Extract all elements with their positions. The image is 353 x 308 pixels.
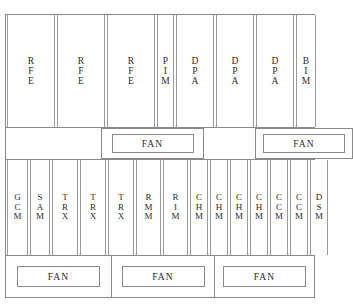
card-label-letter: M <box>302 76 311 86</box>
card-label-letter: D <box>231 56 238 66</box>
card-rfe-0[interactable]: RFE <box>7 15 55 127</box>
card-chm-8[interactable]: CHM <box>210 160 228 255</box>
card-ccm-11[interactable]: CCM <box>270 160 288 255</box>
card-dpa-6[interactable]: DPA <box>256 15 294 127</box>
fan-unit-1[interactable]: FAN <box>263 134 345 153</box>
card-label-letter: R <box>128 56 135 66</box>
card-chm-9[interactable]: CHM <box>230 160 248 255</box>
card-label-letter: D <box>271 56 278 66</box>
card-label-letter: E <box>28 76 34 86</box>
card-label-letter: I <box>304 66 307 76</box>
card-label: RFE <box>128 56 135 86</box>
card-label: CCM <box>275 193 283 222</box>
card-label: DPA <box>191 56 198 86</box>
card-label: TRX <box>90 193 97 222</box>
fan-bay-2: FAN <box>215 256 314 297</box>
card-label-letter: A <box>191 76 198 86</box>
card-label-letter: F <box>128 66 133 76</box>
card-label: TRX <box>118 193 125 222</box>
card-label: SAM <box>36 193 44 222</box>
card-label-letter: I <box>164 66 167 76</box>
fan-unit-0[interactable]: FAN <box>112 134 194 153</box>
card-label: GCM <box>13 193 21 222</box>
fan-bay-0: FAN <box>6 256 112 297</box>
card-label-letter: M <box>315 212 323 222</box>
card-label-letter: M <box>235 212 243 222</box>
card-label-letter: A <box>271 76 278 86</box>
card-label: DPA <box>231 56 238 86</box>
card-sam-1[interactable]: SAM <box>30 160 50 255</box>
card-rmm-5[interactable]: RMM <box>136 160 161 255</box>
card-trx-2[interactable]: TRX <box>52 160 78 255</box>
card-label-letter: R <box>78 56 85 66</box>
card-label-letter: M <box>255 212 263 222</box>
card-label: DPA <box>271 56 278 86</box>
card-label: DSM <box>315 193 323 222</box>
card-label-letter: M <box>161 76 170 86</box>
card-label: PIM <box>161 56 170 86</box>
card-label: CHM <box>215 193 223 222</box>
card-label-letter: R <box>28 56 35 66</box>
lower-fan-tray: FANFANFAN <box>6 256 314 297</box>
fan-unit-2[interactable]: FAN <box>223 266 306 287</box>
card-label-letter: P <box>272 66 277 76</box>
card-chm-10[interactable]: CHM <box>250 160 268 255</box>
card-label: BIM <box>302 56 311 86</box>
card-label-letter: X <box>118 212 125 222</box>
fan-unit-1[interactable]: FAN <box>122 266 205 287</box>
fan-bay-0: FAN <box>101 128 204 159</box>
card-label: CCM <box>295 193 303 222</box>
card-chm-7[interactable]: CHM <box>190 160 208 255</box>
card-label-letter: X <box>62 212 69 222</box>
card-label-letter: X <box>90 212 97 222</box>
card-rim-6[interactable]: RIM <box>163 160 188 255</box>
fan-bay-1: FAN <box>255 128 353 159</box>
card-label-letter: P <box>232 66 237 76</box>
card-label-letter: D <box>191 56 198 66</box>
upper-fan-tray: FANFAN <box>6 128 314 160</box>
upper-card-shelf: RFERFERFEPIMDPADPADPABIM <box>6 15 314 128</box>
card-label: CHM <box>255 193 263 222</box>
card-dsm-13[interactable]: DSM <box>310 160 328 255</box>
card-label-letter: E <box>78 76 84 86</box>
card-ccm-12[interactable]: CCM <box>290 160 308 255</box>
lower-card-shelf: GCMSAMTRXTRXTRXRMMRIMCHMCHMCHMCHMCCMCCMD… <box>6 160 314 256</box>
card-label-letter: M <box>195 212 203 222</box>
card-label: RMM <box>144 193 152 222</box>
card-label: RFE <box>28 56 35 86</box>
card-label-letter: F <box>28 66 33 76</box>
card-label: CHM <box>235 193 243 222</box>
card-label: RIM <box>171 193 179 222</box>
card-label: CHM <box>195 193 203 222</box>
card-gcm-0[interactable]: GCM <box>7 160 28 255</box>
card-rfe-2[interactable]: RFE <box>107 15 155 127</box>
card-label-letter: M <box>171 212 179 222</box>
card-dpa-5[interactable]: DPA <box>216 15 254 127</box>
card-label-letter: M <box>295 212 303 222</box>
card-label-letter: M <box>144 212 152 222</box>
fan-bay-1: FAN <box>112 256 215 297</box>
card-label-letter: A <box>231 76 238 86</box>
card-label: RFE <box>78 56 85 86</box>
card-label-letter: F <box>78 66 83 76</box>
card-label-letter: M <box>275 212 283 222</box>
chassis-frame: RFERFERFEPIMDPADPADPABIM FANFAN GCMSAMTR… <box>5 14 315 298</box>
fan-tray-lead-gutter <box>6 128 101 159</box>
card-pim-3[interactable]: PIM <box>157 15 174 127</box>
fan-unit-0[interactable]: FAN <box>17 266 100 287</box>
card-dpa-4[interactable]: DPA <box>176 15 214 127</box>
card-label-letter: M <box>36 212 44 222</box>
card-label-letter: M <box>13 212 21 222</box>
fan-tray-gap <box>204 128 255 159</box>
card-label-letter: B <box>303 56 310 66</box>
card-trx-3[interactable]: TRX <box>80 160 106 255</box>
card-trx-4[interactable]: TRX <box>108 160 134 255</box>
card-label-letter: M <box>215 212 223 222</box>
card-label-letter: P <box>163 56 168 66</box>
card-label-letter: E <box>128 76 134 86</box>
card-label: TRX <box>62 193 69 222</box>
card-label-letter: P <box>192 66 197 76</box>
card-bim-7[interactable]: BIM <box>296 15 316 127</box>
card-rfe-1[interactable]: RFE <box>57 15 105 127</box>
